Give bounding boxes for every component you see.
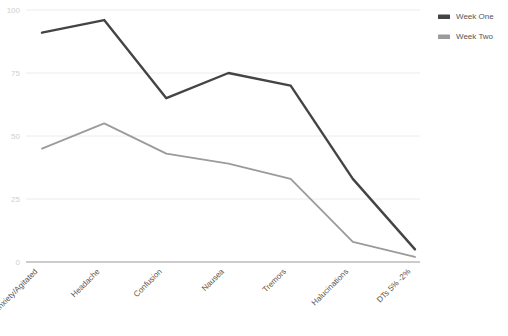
x-axis-tick-label: Nausea bbox=[200, 267, 226, 293]
series-line-week-two bbox=[42, 123, 415, 257]
legend-label: Week One bbox=[456, 12, 494, 21]
x-axis-tick-label: DTs 5% -2% bbox=[375, 267, 412, 304]
legend-label: Week Two bbox=[456, 32, 494, 41]
y-axis-tick-label: 75 bbox=[11, 69, 20, 78]
chart-canvas: 0255075100 Anxiety/AgitatedHeadacheConfu… bbox=[0, 0, 508, 336]
x-axis-tick-label: Halucinations bbox=[310, 267, 350, 307]
gridlines-group bbox=[26, 10, 420, 199]
y-axis-tick-label: 0 bbox=[16, 258, 21, 267]
y-axis-tick-label: 50 bbox=[11, 132, 20, 141]
x-axis-tick-labels: Anxiety/AgitatedHeadacheConfusionNauseaT… bbox=[0, 267, 412, 315]
y-axis-tick-label: 100 bbox=[7, 6, 21, 15]
x-axis-tick-label: Headache bbox=[69, 267, 102, 300]
legend-swatch bbox=[438, 15, 450, 20]
x-axis-tick-label: Confusion bbox=[132, 267, 164, 299]
chart-legend: Week OneWeek Two bbox=[438, 12, 494, 41]
series-lines-group bbox=[42, 20, 415, 257]
line-chart: 0255075100 Anxiety/AgitatedHeadacheConfu… bbox=[0, 0, 508, 336]
legend-swatch bbox=[438, 35, 450, 40]
y-axis-tick-labels: 0255075100 bbox=[7, 6, 21, 267]
y-axis-tick-label: 25 bbox=[11, 195, 20, 204]
x-axis-tick-label: Tremors bbox=[261, 267, 288, 294]
x-axis-tick-label: Anxiety/Agitated bbox=[0, 267, 39, 314]
series-line-week-one bbox=[42, 20, 415, 249]
